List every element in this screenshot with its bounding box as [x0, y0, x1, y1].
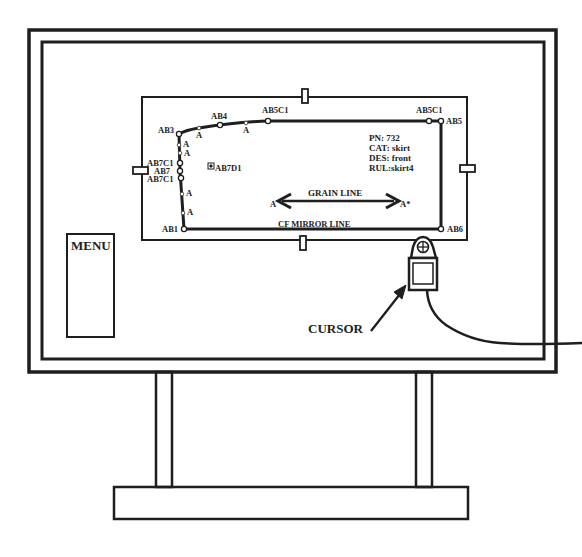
pattern-outline [179, 121, 441, 229]
cursor-puck[interactable] [409, 237, 437, 290]
point-marker-icon [426, 118, 431, 123]
cursor-label: CURSOR [308, 321, 364, 336]
point-label: AB5 [446, 116, 462, 126]
internal-point-label: AB7D1 [215, 163, 241, 173]
point-marker-icon [177, 168, 182, 173]
pattern-category: CAT: skirt [369, 143, 410, 153]
point-label: AB3 [158, 125, 174, 135]
pattern-rule: RUL:skirt4 [369, 163, 414, 173]
digitizer-diagram: AB3AB4AB5C1AB5C1AB5AB6AB1AB7C1AB7AB7C1 A… [0, 0, 582, 557]
a-mark-label: A [184, 148, 191, 158]
a-mark-label: A [243, 125, 250, 135]
point-label: AB4 [211, 111, 228, 121]
drill-point-dot [210, 165, 212, 167]
point-marker-icon [265, 118, 270, 123]
table-base [114, 487, 468, 519]
pattern-point: AB7C1 [147, 174, 184, 184]
pattern-description: DES: front [369, 153, 411, 163]
a-mark-dot-icon [181, 211, 185, 215]
board-clip-left [133, 167, 148, 174]
grain-line-label: GRAIN LINE [308, 188, 362, 198]
point-marker-icon [178, 175, 183, 180]
point-label: AB1 [162, 224, 178, 234]
a-mark-label: A [196, 130, 203, 140]
point-marker-icon [176, 131, 181, 136]
pattern-points: AB3AB4AB5C1AB5C1AB5AB6AB1AB7C1AB7AB7C1 [147, 105, 463, 234]
board-clip-top [302, 89, 308, 103]
board-clip-bottom [300, 236, 306, 250]
grain-start-label: A [270, 199, 277, 209]
a-mark-dot-icon [180, 192, 184, 196]
grain-end-label: A* [400, 199, 410, 209]
table-leg-left [156, 372, 172, 487]
point-label: AB7C1 [147, 174, 173, 184]
point-marker-icon [181, 226, 186, 231]
pattern-point: AB3 [158, 125, 182, 137]
point-label: AB6 [447, 224, 463, 234]
mirror-line-label: CF MIRROR LINE [278, 219, 351, 229]
point-label: AB5C1 [416, 105, 442, 115]
menu-label: MENU [71, 238, 111, 253]
point-marker-icon [438, 226, 443, 231]
a-mark-dot-icon [178, 151, 182, 155]
point-marker-icon [177, 160, 182, 165]
cursor-pointer-arrowhead [394, 285, 406, 299]
cursor-pointer-arrow [371, 294, 400, 331]
a-mark-label: A [187, 207, 194, 217]
point-marker-icon [217, 122, 222, 127]
point-marker-icon [438, 118, 443, 123]
a-mark-dot-icon [177, 143, 181, 147]
board-clip-right [460, 165, 475, 172]
a-mark-label: A [186, 188, 193, 198]
cursor-cable [427, 290, 582, 344]
pattern-number: PN: 732 [369, 133, 400, 143]
table-leg-right [416, 372, 432, 487]
point-label: AB5C1 [262, 105, 288, 115]
